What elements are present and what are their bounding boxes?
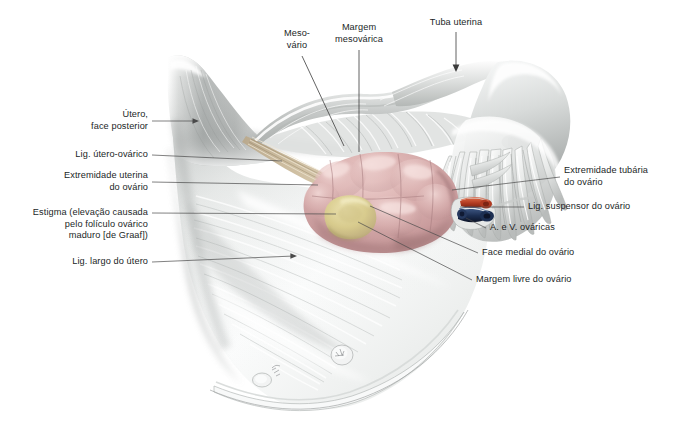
label-lig-suspensor-do-ovario: Lig. suspensor do ovário xyxy=(528,201,680,213)
label-lig-utero-ovarico: Lig. útero-ovárico xyxy=(0,149,148,161)
label-extremidade-uterina-do-ovario: Extremidade uterina do ovário xyxy=(0,170,148,193)
label-face-medial-do-ovario: Face medial do ovário xyxy=(482,247,642,259)
label-a-e-v-ovaricas: A. e V. ováricas xyxy=(490,222,620,234)
label-margem-livre-do-ovario: Margem livre do ovário xyxy=(476,274,640,286)
ovary xyxy=(304,149,460,253)
label-estigma: Estigma (elevação causada pelo folículo … xyxy=(0,207,148,242)
label-utero-face-posterior: Útero, face posterior xyxy=(0,109,148,132)
label-tuba-uterina: Tuba uterina xyxy=(410,17,502,29)
stigma-follicle xyxy=(324,195,376,240)
label-lig-largo-do-utero: Lig. largo do útero xyxy=(0,256,148,268)
label-extremidade-tubaria-do-ovario: Extremidade tubária do ovário xyxy=(564,165,680,188)
label-margem-mesovarica: Margem mesovárica xyxy=(320,22,398,45)
